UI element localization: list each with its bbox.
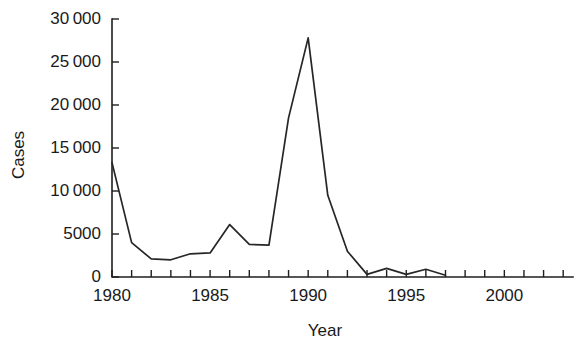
y-tick-label: 20 000: [50, 95, 101, 114]
x-tick-label: 1985: [191, 286, 229, 305]
y-tick-label: 25 000: [50, 52, 101, 71]
data-series-line: [112, 38, 445, 275]
y-axis-title: Cases: [9, 131, 28, 179]
chart-canvas: Cases Year 0500010 00015 00020 00025 000…: [0, 0, 588, 345]
x-tick-mark-group: [112, 270, 563, 277]
x-tick-label: 1995: [387, 286, 425, 305]
y-tick-label: 30 000: [50, 9, 101, 28]
y-tick-label: 15 000: [50, 138, 101, 157]
x-tick-label: 1980: [93, 286, 131, 305]
y-tick-label: 0: [92, 267, 101, 286]
x-tick-label: 1990: [289, 286, 327, 305]
y-tick-mark-group: [112, 19, 119, 277]
y-tick-label: 5000: [63, 224, 101, 243]
x-tick-label: 2000: [485, 286, 523, 305]
line-chart: Cases Year 0500010 00015 00020 00025 000…: [0, 0, 588, 345]
y-tick-label-group: 0500010 00015 00020 00025 00030 000: [50, 9, 101, 286]
x-axis-title: Year: [308, 321, 343, 340]
x-tick-label-group: 19801985199019952000: [93, 286, 523, 305]
y-tick-label: 10 000: [50, 181, 101, 200]
